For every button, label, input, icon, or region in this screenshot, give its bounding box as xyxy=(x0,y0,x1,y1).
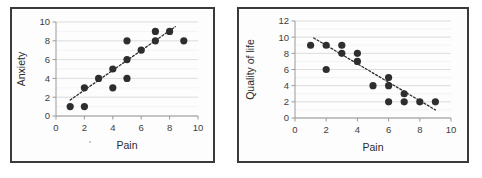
data-point xyxy=(95,75,102,82)
y-tick-label: 4 xyxy=(45,73,50,84)
y-axis-title: Quality of life xyxy=(244,39,256,100)
y-tick-label: 6 xyxy=(45,54,50,65)
x-tick-label: 4 xyxy=(355,124,360,135)
y-tick-label: 12 xyxy=(278,15,289,26)
chart-panel-quality-of-life: 0246810120246810PainQuality of life xyxy=(237,7,469,163)
y-axis-title: Anxiety xyxy=(15,51,27,86)
data-point xyxy=(354,58,361,65)
data-point xyxy=(123,75,130,82)
x-tick-label: 0 xyxy=(53,122,58,133)
x-tick-label: 6 xyxy=(386,124,391,135)
data-point xyxy=(385,98,392,105)
data-point xyxy=(401,90,408,97)
data-point xyxy=(81,103,88,110)
scan-speck xyxy=(89,141,91,143)
data-point xyxy=(123,56,130,63)
data-point xyxy=(67,103,74,110)
data-point xyxy=(401,98,408,105)
data-point xyxy=(180,37,187,44)
data-point xyxy=(338,50,345,57)
anxiety-vs-pain-scatter: 02468100246810PainAnxiety xyxy=(12,9,213,161)
quality-of-life-vs-pain-scatter: 0246810120246810PainQuality of life xyxy=(239,9,467,161)
data-point xyxy=(354,50,361,57)
data-point xyxy=(432,98,439,105)
y-tick-label: 2 xyxy=(284,96,289,107)
data-point xyxy=(369,82,376,89)
y-tick-label: 10 xyxy=(39,16,50,27)
x-tick-label: 10 xyxy=(193,122,204,133)
y-tick-label: 4 xyxy=(284,80,289,91)
chart-panel-anxiety: 02468100246810PainAnxiety xyxy=(10,7,215,163)
data-point xyxy=(123,37,130,44)
data-point xyxy=(323,66,330,73)
y-tick-label: 8 xyxy=(284,48,289,59)
data-point xyxy=(338,42,345,49)
data-point xyxy=(307,42,314,49)
data-point xyxy=(109,65,116,72)
y-tick-label: 8 xyxy=(45,35,50,46)
x-tick-label: 2 xyxy=(82,122,87,133)
data-point xyxy=(385,82,392,89)
x-tick-label: 2 xyxy=(324,124,329,135)
data-point xyxy=(385,74,392,81)
data-point xyxy=(323,42,330,49)
x-tick-label: 6 xyxy=(139,122,144,133)
two-panel-scatter-figure: 02468100246810PainAnxiety 02468101202468… xyxy=(0,0,482,178)
data-point xyxy=(109,84,116,91)
x-tick-label: 10 xyxy=(446,124,457,135)
x-axis-title: Pain xyxy=(116,139,137,151)
data-point xyxy=(138,47,145,54)
y-tick-label: 0 xyxy=(284,112,289,123)
x-tick-label: 8 xyxy=(417,124,422,135)
y-tick-label: 2 xyxy=(45,92,50,103)
data-point xyxy=(152,28,159,35)
y-tick-label: 10 xyxy=(278,32,289,43)
data-point xyxy=(81,84,88,91)
y-tick-label: 0 xyxy=(45,110,50,121)
data-point xyxy=(152,37,159,44)
trendline xyxy=(314,38,436,110)
data-point xyxy=(416,98,423,105)
y-tick-label: 6 xyxy=(284,64,289,75)
data-point xyxy=(166,28,173,35)
x-tick-label: 8 xyxy=(167,122,172,133)
x-axis-title: Pain xyxy=(362,141,383,153)
x-tick-label: 0 xyxy=(292,124,297,135)
x-tick-label: 4 xyxy=(110,122,115,133)
